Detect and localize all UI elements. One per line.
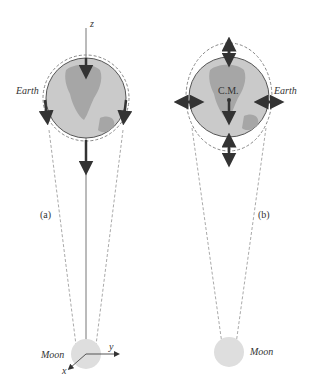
z-axis-label: z [90, 19, 94, 29]
tangent-line-right [96, 130, 123, 345]
panel-label-b: (b) [258, 210, 270, 220]
tangent-line-left-b [192, 128, 222, 344]
earth-label-b: Earth [274, 86, 297, 96]
moon-label-b: Moon [250, 347, 273, 357]
moon-b [214, 337, 244, 367]
panel-label-a: (a) [40, 210, 51, 220]
tangent-line-right-b [236, 128, 266, 344]
y-axis-label: y [109, 342, 113, 352]
panel-a [43, 28, 129, 369]
earth-label-a: Earth [16, 86, 39, 96]
x-axis-label: x [62, 366, 66, 376]
tangent-line-left [49, 130, 76, 345]
center-of-mass-label: C.M. [218, 86, 239, 96]
moon-label-a: Moon [41, 350, 64, 360]
tidal-force-diagram [0, 0, 313, 388]
